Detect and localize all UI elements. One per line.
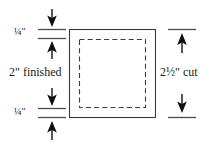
seam-allowance-top-label: ¼" (14, 27, 26, 37)
right-bottom-down-arrow-icon (177, 94, 187, 113)
top-left-up-arrow-icon (47, 41, 57, 59)
top-left-down-arrow-icon (47, 9, 57, 27)
finished-size-label: 2" finished (9, 66, 62, 78)
seam-allowance-bottom-label: ¼" (14, 107, 26, 117)
finished-square-outline (80, 40, 146, 108)
seam-allowance-diagram: ¼" ¼" 2" finished 2½" cut (0, 0, 209, 153)
bottom-left-down-arrow-icon (47, 88, 57, 106)
right-top-up-arrow-icon (177, 33, 187, 53)
cut-square-outline (70, 30, 156, 118)
bottom-left-up-arrow-icon (47, 121, 57, 140)
cut-size-label: 2½" cut (160, 66, 198, 78)
